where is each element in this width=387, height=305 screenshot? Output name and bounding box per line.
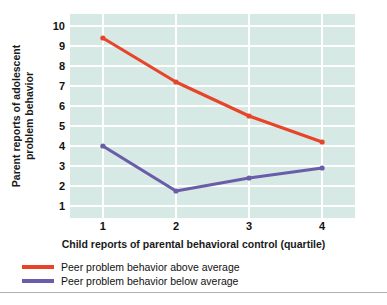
y-axis-tick-label: 2 <box>43 181 65 191</box>
data-point-marker <box>100 35 105 40</box>
y-axis-tick-label: 6 <box>43 101 65 111</box>
data-point-marker <box>173 188 178 193</box>
data-point-marker <box>246 175 251 180</box>
x-axis-tick-label: 4 <box>307 220 337 232</box>
y-axis-tick-label: 10 <box>43 21 65 31</box>
y-axis-tick-label: 7 <box>43 81 65 91</box>
series-line <box>103 146 322 191</box>
legend-item: Peer problem behavior below average <box>22 274 362 288</box>
y-axis-tick-label: 1 <box>43 201 65 211</box>
legend-item-label: Peer problem behavior above average <box>61 261 240 273</box>
plot-area <box>70 14 355 218</box>
y-axis-tick-labels: 10987654321 <box>44 14 68 218</box>
data-point-marker <box>173 79 178 84</box>
series-lines <box>70 14 355 218</box>
x-axis-tick-label: 1 <box>88 220 118 232</box>
legend-color-swatch <box>22 279 54 283</box>
legend-color-swatch <box>22 265 54 269</box>
x-axis-tick-label: 3 <box>234 220 264 232</box>
bottom-divider <box>0 292 387 293</box>
x-axis-title: Child reports of parental behavioral con… <box>0 238 387 250</box>
series-line <box>103 38 322 142</box>
data-point-marker <box>100 143 105 148</box>
data-point-marker <box>246 113 251 118</box>
legend-item: Peer problem behavior above average <box>22 260 362 274</box>
legend-item-label: Peer problem behavior below average <box>61 275 238 287</box>
y-axis-tick-label: 8 <box>43 61 65 71</box>
chart-figure: Parent reports of adolescent problem beh… <box>0 0 387 305</box>
data-point-marker <box>320 165 325 170</box>
data-point-marker <box>320 139 325 144</box>
y-axis-tick-label: 3 <box>43 161 65 171</box>
x-axis-tick-labels: 1234 <box>70 220 355 238</box>
chart-legend: Peer problem behavior above averagePeer … <box>22 260 362 288</box>
y-axis-title: Parent reports of adolescent problem beh… <box>0 14 44 218</box>
x-axis-tick-label: 2 <box>161 220 191 232</box>
y-axis-title-line-2: problem behavior <box>22 45 35 187</box>
y-axis-tick-label: 5 <box>43 121 65 131</box>
y-axis-title-line-1: Parent reports of adolescent <box>10 45 23 187</box>
y-axis-tick-label: 4 <box>43 141 65 151</box>
y-axis-tick-label: 9 <box>43 41 65 51</box>
